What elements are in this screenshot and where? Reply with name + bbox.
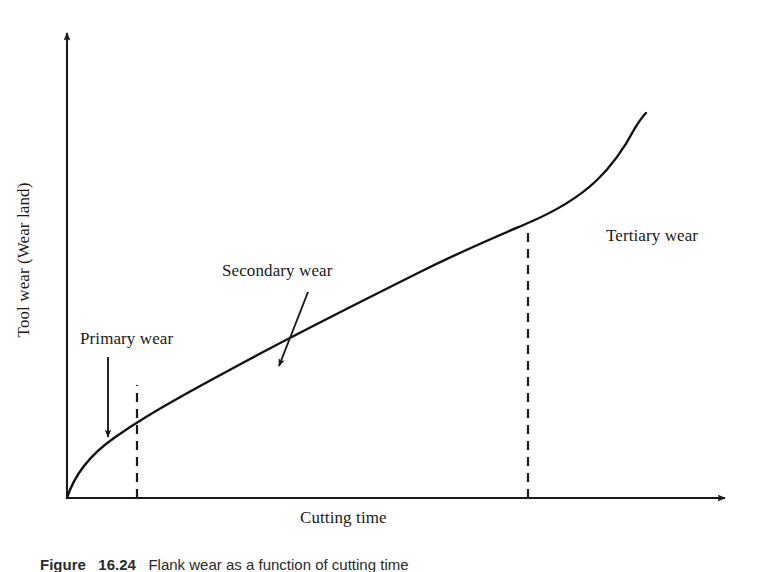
figure-caption-label: Figure xyxy=(40,556,86,572)
figure-caption-text: Flank wear as a function of cutting time xyxy=(148,556,408,572)
figure-caption: Figure 16.24 Flank wear as a function of… xyxy=(40,556,409,572)
tool-wear-curve xyxy=(67,113,646,498)
annotation-tertiary-wear: Tertiary wear xyxy=(606,226,698,246)
secondary-wear-callout-arrow xyxy=(279,292,308,366)
annotation-primary-wear: Primary wear xyxy=(80,329,173,349)
figure-container: Tool wear (Wear land) Cutting time Prima… xyxy=(0,0,767,572)
figure-caption-number: 16.24 xyxy=(98,556,136,572)
x-axis-label: Cutting time xyxy=(300,508,387,528)
tool-wear-chart xyxy=(0,0,767,572)
annotation-secondary-wear: Secondary wear xyxy=(222,261,332,281)
y-axis-label: Tool wear (Wear land) xyxy=(14,100,34,420)
